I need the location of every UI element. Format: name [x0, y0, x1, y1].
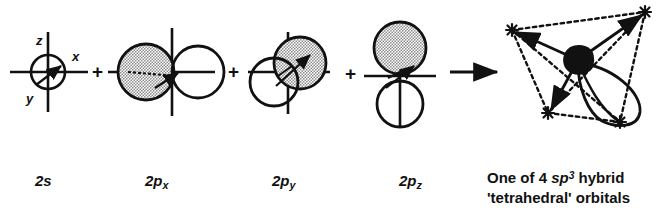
axis-label-x: x — [72, 50, 79, 63]
orbital-label-2py-symbol: p — [280, 172, 289, 189]
orbital-label-2px: 2px — [145, 173, 169, 191]
orbital-hybridization-figure: z x y + + + 2s 2px 2py 2pz One of 4 sp3 … — [0, 0, 663, 222]
axis-label-z: z — [36, 34, 43, 47]
sp3-caption-sp: sp — [551, 169, 569, 186]
orbital-label-2py: 2py — [272, 173, 296, 191]
orbital-2px-graphic — [108, 28, 224, 116]
sp3-caption-plain-b: hybrid — [574, 169, 624, 186]
orbital-label-2s: 2s — [35, 173, 52, 188]
sp3-caption-italic: sp3 — [551, 169, 574, 186]
orbital-label-2px-subscript: x — [163, 179, 169, 191]
orbital-2py-graphic — [248, 32, 330, 114]
sp3-result-caption-line-1: One of 4 sp3 hybrid — [487, 168, 630, 188]
orbital-2pz-graphic — [364, 22, 436, 128]
sp3-caption-plain-a: One of 4 — [487, 169, 551, 186]
plus-operator-3: + — [345, 64, 356, 83]
orbital-2s-graphic — [10, 32, 88, 112]
orbital-label-2pz-subscript: z — [417, 179, 422, 191]
plus-operator-1: + — [92, 62, 103, 81]
nucleus-blob — [564, 46, 594, 74]
orbital-label-2px-symbol: p — [153, 172, 162, 189]
sp3-result-caption: One of 4 sp3 hybrid 'tetrahedral' orbita… — [487, 168, 630, 207]
sp3-result-caption-line-2: 'tetrahedral' orbitals — [487, 188, 630, 208]
axis-label-y: y — [26, 92, 33, 105]
orbital-label-2pz: 2pz — [399, 173, 422, 191]
orbital-label-2pz-symbol: p — [407, 172, 416, 189]
plus-operator-2: + — [228, 62, 239, 81]
sp3-tetrahedron-graphic — [506, 6, 651, 128]
orbital-label-2s-symbol: s — [43, 172, 51, 189]
orbital-label-2py-subscript: y — [290, 179, 296, 191]
